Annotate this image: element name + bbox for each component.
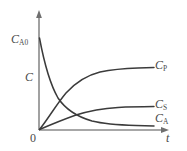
series-label-ca-text: C xyxy=(155,111,163,125)
series-label-ca: CA xyxy=(155,112,169,124)
series-label-cs-text: C xyxy=(155,97,163,111)
series-label-cp-text: C xyxy=(155,58,163,72)
chart-figure: CA0 C 0 t CP CS CA xyxy=(0,0,187,151)
origin-label: 0 xyxy=(30,132,36,144)
label-ca0-text: C xyxy=(11,32,19,46)
series-label-cp: CP xyxy=(155,59,167,71)
y-axis-arrowhead xyxy=(36,10,42,18)
label-initial-concentration: CA0 xyxy=(11,33,29,45)
series-label-cs: CS xyxy=(155,98,167,110)
series-label-ca-subscript: A xyxy=(163,117,169,126)
curve-ca xyxy=(40,38,155,126)
series-label-cp-subscript: P xyxy=(163,64,167,73)
label-ca0-subscript: A0 xyxy=(19,38,29,47)
curve-cp xyxy=(40,68,155,130)
y-axis-label: C xyxy=(25,71,33,83)
x-axis-label: t xyxy=(166,132,169,144)
